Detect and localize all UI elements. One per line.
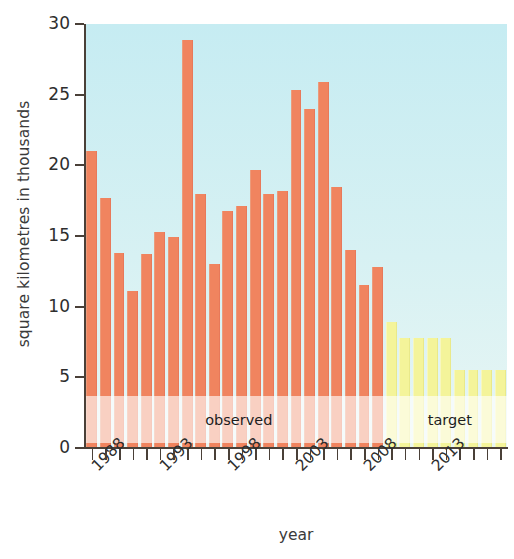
y-tick-label-15: 15: [34, 225, 70, 245]
x-tick-1999: [242, 449, 244, 460]
y-tick-label-0: 0: [34, 437, 70, 457]
x-tick-2000: [255, 449, 257, 460]
bar-2003: [291, 90, 302, 448]
x-tick-2014: [446, 449, 448, 460]
x-tick-2004: [310, 449, 312, 460]
x-tick-2017: [487, 449, 489, 460]
x-tick-1989: [105, 449, 107, 460]
bar-1995: [182, 40, 193, 448]
y-tick-10: [75, 306, 84, 308]
y-tick-label-5: 5: [34, 366, 70, 386]
y-tick-0: [75, 447, 84, 449]
y-tick-20: [75, 164, 84, 166]
x-tick-1995: [187, 449, 189, 460]
y-tick-25: [75, 94, 84, 96]
x-tick-1996: [201, 449, 203, 460]
bar-chart: square kilometres in thousands observed …: [0, 0, 514, 559]
y-axis-title: square kilometres in thousands: [15, 59, 33, 389]
x-tick-2006: [337, 449, 339, 460]
x-tick-2016: [473, 449, 475, 460]
x-tick-2007: [350, 449, 352, 460]
x-tick-2012: [419, 449, 421, 460]
y-tick-5: [75, 376, 84, 378]
plot-area: observed target: [85, 24, 507, 448]
x-tick-2002: [282, 449, 284, 460]
y-tick-label-25: 25: [34, 84, 70, 104]
x-tick-2009: [378, 449, 380, 460]
x-axis-title: year: [85, 526, 507, 544]
y-tick-15: [75, 235, 84, 237]
x-tick-1992: [146, 449, 148, 460]
legend-label-observed: observed: [205, 412, 272, 428]
x-tick-1991: [133, 449, 135, 460]
bars-layer: [85, 24, 507, 448]
x-tick-1997: [214, 449, 216, 460]
bar-2005: [318, 82, 329, 448]
y-tick-label-20: 20: [34, 154, 70, 174]
x-tick-2005: [323, 449, 325, 460]
x-tick-1994: [173, 449, 175, 460]
legend-band-target: target: [393, 396, 507, 443]
x-tick-2010: [391, 449, 393, 460]
y-axis-line: [84, 24, 86, 449]
x-tick-2011: [405, 449, 407, 460]
y-tick-label-10: 10: [34, 296, 70, 316]
legend-band-observed: observed: [85, 396, 393, 443]
legend-label-target: target: [428, 412, 472, 428]
x-tick-2018: [500, 449, 502, 460]
y-tick-30: [75, 23, 84, 25]
y-tick-label-30: 30: [34, 13, 70, 33]
x-tick-1990: [119, 449, 121, 460]
x-tick-2001: [269, 449, 271, 460]
x-tick-2015: [459, 449, 461, 460]
